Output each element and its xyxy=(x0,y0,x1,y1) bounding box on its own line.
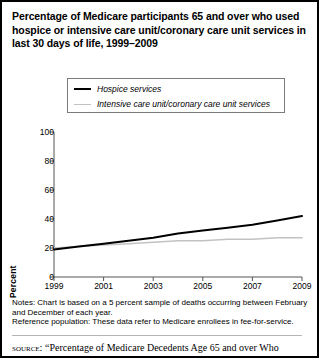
legend-swatch-icon-hospice xyxy=(74,88,91,90)
page-title: Percentage of Medicare participants 65 a… xyxy=(12,10,308,51)
title-line-3: last 30 days of life, 1999–2009 xyxy=(12,37,308,51)
y-tick-label: 20 xyxy=(32,244,54,252)
y-tick-label: 60 xyxy=(32,186,54,194)
y-tick-label: 80 xyxy=(32,157,54,165)
x-axis-ticks: 199920012003200520072009 xyxy=(2,277,319,295)
y-tick-label: 40 xyxy=(32,215,54,223)
x-tick-label: 2007 xyxy=(243,281,262,291)
source-divider xyxy=(12,335,302,336)
legend-item-icu: Intensive care unit/coronary care unit s… xyxy=(74,99,270,109)
y-tick-label: 100 xyxy=(32,128,54,136)
plot-area: Percent 020406080100 1999200120032005200… xyxy=(2,120,319,295)
y-axis-ticks: 020406080100 xyxy=(28,120,54,295)
legend-label-hospice: Hospice services xyxy=(97,84,161,94)
x-tick-label: 2001 xyxy=(94,281,113,291)
note-line-2: and December of each year. xyxy=(12,308,312,318)
note-line-3: Reference population: These data refer t… xyxy=(12,317,312,327)
chart-notes: Notes: Chart is based on a 5 percent sam… xyxy=(12,298,312,327)
chart-figure: Percentage of Medicare participants 65 a… xyxy=(0,0,319,358)
title-line-2: hospice or intensive care unit/coronary … xyxy=(12,24,308,38)
x-tick-label: 2003 xyxy=(144,281,163,291)
note-line-1: Notes: Chart is based on a 5 percent sam… xyxy=(12,298,312,308)
legend-swatch-icon-icu xyxy=(74,104,91,105)
source-kicker: source: xyxy=(12,342,43,353)
x-tick-label: 2005 xyxy=(193,281,212,291)
source-text: “Percentage of Medicare Decedents Age 65… xyxy=(45,342,279,353)
x-tick-label: 1999 xyxy=(45,281,64,291)
chart-legend: Hospice services Intensive care unit/cor… xyxy=(67,78,285,113)
title-line-1: Percentage of Medicare participants 65 a… xyxy=(12,10,308,24)
source-citation: source: “Percentage of Medicare Decedent… xyxy=(12,342,312,354)
x-tick-label: 2009 xyxy=(293,281,312,291)
legend-label-icu: Intensive care unit/coronary care unit s… xyxy=(97,99,270,109)
legend-item-hospice: Hospice services xyxy=(74,84,161,94)
